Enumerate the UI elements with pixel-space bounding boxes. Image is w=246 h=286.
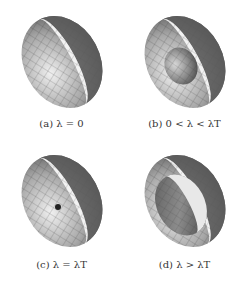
panel-a: (a) λ = 0 [0, 0, 123, 143]
caption-a: (a) λ = 0 [0, 118, 123, 129]
panel-b: (b) 0 < λ < λT [123, 0, 246, 143]
hemisphere-shell-figure [123, 143, 246, 263]
panel-d: (d) λ > λT [123, 143, 246, 286]
singular-point-dot [55, 204, 61, 210]
caption-b: (b) 0 < λ < λT [123, 118, 246, 129]
hemisphere-shell-figure [123, 0, 246, 120]
hemisphere-shell-figure [0, 143, 123, 263]
caption-d: (d) λ > λT [123, 259, 246, 270]
caption-c: (c) λ = λT [0, 259, 123, 270]
hemisphere-shell-figure [0, 0, 123, 120]
panel-c: (c) λ = λT [0, 143, 123, 286]
